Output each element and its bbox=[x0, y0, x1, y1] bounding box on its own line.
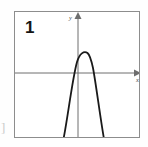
parabola-curve bbox=[64, 52, 105, 138]
y-axis-label: y bbox=[68, 14, 72, 21]
x-axis-label: x bbox=[135, 76, 139, 83]
y-axis-arrow bbox=[75, 12, 82, 19]
page-margin-glyph: ] bbox=[1, 121, 5, 134]
figure-number-label: 1 bbox=[25, 19, 34, 36]
figure-panel: 1 x y bbox=[14, 11, 140, 138]
figure-root: ] 1 x y bbox=[0, 0, 148, 147]
